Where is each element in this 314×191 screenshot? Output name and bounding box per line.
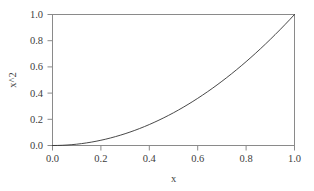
x-tick-label: 0.8 xyxy=(240,153,253,164)
x-tick-label: 1.0 xyxy=(288,153,301,164)
x-tick-label: 0.6 xyxy=(191,153,204,164)
y-tick-label: 1.0 xyxy=(30,9,43,20)
x-tick-label: 0.0 xyxy=(46,153,59,164)
x-tick-label: 0.4 xyxy=(143,153,157,164)
y-tick-label: 0.6 xyxy=(30,61,43,72)
chart-figure: 0.0 0.2 0.4 0.6 0.8 1.0 0.0 0.2 0.4 0.6 … xyxy=(0,0,314,191)
x-axis-title: x xyxy=(171,173,177,184)
y-tick-label: 0.8 xyxy=(30,35,43,46)
x-tick-label: 0.2 xyxy=(94,153,107,164)
plot-canvas: 0.0 0.2 0.4 0.6 0.8 1.0 0.0 0.2 0.4 0.6 … xyxy=(0,0,314,191)
y-tick-label: 0.2 xyxy=(30,114,43,125)
y-axis-title: x^2 xyxy=(7,72,18,87)
y-tick-label: 0.0 xyxy=(30,140,43,151)
y-tick-label: 0.4 xyxy=(30,88,44,99)
